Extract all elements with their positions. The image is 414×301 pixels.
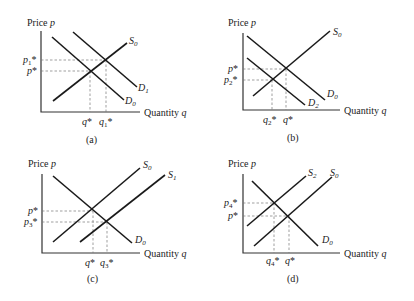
label-p-star: p*: [227, 210, 238, 221]
panel-b: Price p Quantity q S0 D0 D2 p* p2* q2* q…: [223, 17, 387, 144]
label-p-star: p*: [26, 65, 37, 76]
supply-curve-s0: [253, 31, 330, 96]
label-s0: S0: [129, 35, 138, 48]
y-axis-label: Price p: [228, 158, 256, 169]
label-q4-star: q4*: [266, 255, 280, 268]
panel-a: Price p Quantity q S0 D1 D0 p1* p* q* q1…: [22, 17, 187, 146]
label-d2: D2: [307, 97, 319, 110]
label-d1: D1: [137, 82, 149, 95]
label-p2-star: p2*: [223, 74, 238, 87]
panel-c: Price p Quantity q S0 S1 D0 p* p3* q* q3…: [23, 158, 187, 285]
y-axis-label: Price p: [27, 17, 55, 28]
panel-caption-a: (a): [86, 134, 97, 146]
panel-caption-d: (d): [287, 273, 299, 285]
label-d0: D0: [124, 95, 136, 108]
label-d0: D0: [134, 234, 146, 247]
label-q-star: q*: [283, 114, 293, 125]
panel-d: Price p Quantity q S2 S0 D0 p4* p* q4* q…: [223, 158, 387, 285]
label-q-star: q*: [85, 257, 95, 268]
figure: Price p Quantity q S0 D1 D0 p1* p* q* q1…: [0, 0, 414, 301]
label-q-star: q*: [82, 116, 92, 127]
panel-caption-b: (b): [287, 132, 299, 144]
label-p-star: p*: [27, 205, 38, 216]
label-d0: D0: [326, 88, 338, 101]
label-d0: D0: [321, 234, 333, 247]
y-axis-label: Price p: [228, 17, 256, 28]
label-s1: S1: [168, 169, 177, 182]
x-axis-label: Quantity q: [344, 105, 387, 116]
label-s0: S0: [333, 26, 342, 39]
x-axis-label: Quantity q: [344, 248, 387, 259]
label-s0: S0: [143, 159, 152, 172]
label-q1-star: q1*: [99, 116, 113, 129]
label-p3-star: p3*: [23, 216, 38, 229]
x-axis-label: Quantity q: [144, 107, 187, 118]
label-p4-star: p4*: [223, 197, 238, 210]
demand-curve-d0: [52, 37, 124, 100]
panel-caption-c: (c): [87, 273, 98, 285]
demand-curve-d2: [247, 58, 305, 105]
axes: [42, 174, 140, 253]
supply-curve-s2: [247, 176, 306, 226]
y-axis-label: Price p: [28, 158, 56, 169]
label-q-star: q*: [285, 255, 295, 266]
label-p-star: p*: [227, 63, 238, 74]
label-q2-star: q2*: [263, 114, 277, 127]
label-s2: S2: [308, 167, 317, 180]
label-q3-star: q3*: [100, 257, 114, 270]
x-axis-label: Quantity q: [144, 248, 187, 259]
